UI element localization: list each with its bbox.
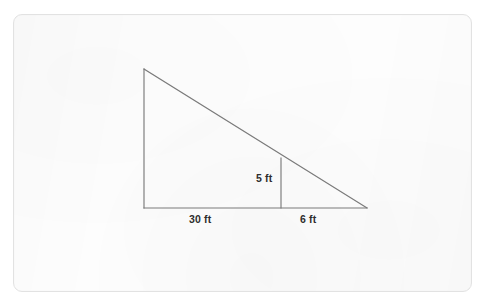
triangle-hypotenuse: [144, 69, 367, 208]
figure-canvas: 5 ft 30 ft 6 ft: [0, 0, 485, 306]
base-left-segment-label: 30 ft: [189, 214, 211, 225]
triangle-diagram: [0, 0, 485, 306]
base-right-segment-label: 6 ft: [300, 214, 316, 225]
altitude-length-label: 5 ft: [256, 173, 272, 184]
